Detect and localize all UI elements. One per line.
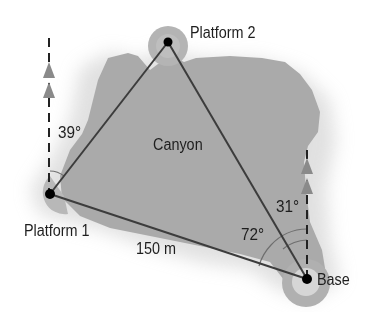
base-label: Base xyxy=(317,272,350,288)
north-arrows-platform1 xyxy=(43,62,55,98)
distance-label: 150 m xyxy=(136,241,176,257)
platform1-point xyxy=(45,189,55,199)
north-arrow-icon xyxy=(43,62,55,78)
north-arrow-icon xyxy=(43,82,55,98)
platform2-label: Platform 2 xyxy=(190,25,256,41)
angle-label-base-north: 31° xyxy=(276,198,299,215)
diagram-canvas xyxy=(0,0,368,312)
platform2-point xyxy=(164,38,173,47)
angle-label-base-side: 72° xyxy=(241,226,264,243)
canyon-label: Canyon xyxy=(153,137,203,153)
base-point xyxy=(302,274,312,284)
angle-label-platform1: 39° xyxy=(58,124,81,141)
platform1-label: Platform 1 xyxy=(24,223,90,239)
bearing-diagram: Platform 2 39° Canyon 31° 72° Platform 1… xyxy=(0,0,368,312)
